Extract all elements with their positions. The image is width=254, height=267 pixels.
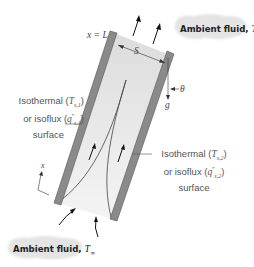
x-axis-arrow-icon bbox=[39, 171, 43, 176]
theta-arrow-icon bbox=[170, 87, 175, 91]
spacing-label: S bbox=[134, 46, 139, 57]
right-surface-label: Isothermal (Ts,2) or isoflux (q″s,2) sur… bbox=[150, 148, 238, 193]
angle-label: θ bbox=[180, 84, 185, 95]
gravity-label: g bbox=[165, 100, 170, 111]
x-axis-indicator bbox=[38, 174, 41, 190]
top-position-label: x = L bbox=[87, 30, 108, 41]
ambient-fluid-top-label: Ambient fluid, T∞ bbox=[180, 23, 254, 36]
x-axis-label: x bbox=[41, 160, 45, 171]
left-surface-label: Isothermal (Ts,1) or isoflux (q″s,1) sur… bbox=[12, 95, 84, 140]
ambient-fluid-bottom-label: Ambient fluid, T∞ bbox=[13, 243, 95, 256]
diagram-canvas: x = L S θ g x Isothermal (Ts,1) or isofl… bbox=[0, 0, 254, 267]
